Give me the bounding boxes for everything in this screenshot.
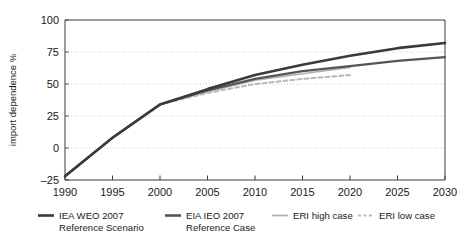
x-tick-label: 1995 [100, 186, 124, 198]
y-tick-label: 75 [47, 46, 59, 58]
legend-label-line2: Reference Scenario [59, 222, 144, 233]
x-tick-label: 2025 [385, 186, 409, 198]
x-tick-label: 1990 [53, 186, 77, 198]
chart-legend: IEA WEO 2007Reference ScenarioEIA IEO 20… [38, 210, 435, 233]
y-axis-title: import dependence % [7, 53, 18, 146]
x-tick-label: 2030 [433, 186, 457, 198]
import-dependence-line-chart: 1007550250–25 19901995200020052010201520… [0, 0, 460, 252]
y-tick-label: –25 [41, 174, 59, 186]
gridlines [65, 52, 445, 148]
data-series [65, 43, 445, 176]
legend-label-line1: EIA IEO 2007 [186, 210, 244, 221]
axes [65, 20, 445, 180]
x-axis-ticks [65, 176, 445, 181]
y-tick-label: 100 [41, 14, 59, 26]
x-tick-label: 2015 [290, 186, 314, 198]
x-tick-label: 2000 [148, 186, 172, 198]
y-tick-label: 0 [53, 142, 59, 154]
legend-label-line2: Reference Case [186, 222, 255, 233]
x-axis-tick-labels: 199019952000200520102015202020252030 [53, 186, 457, 198]
legend-label-line1: ERI low case [379, 210, 435, 221]
x-tick-label: 2010 [243, 186, 267, 198]
legend-label-line1: ERI high case [293, 210, 353, 221]
legend-label-line1: IEA WEO 2007 [59, 210, 124, 221]
x-tick-label: 2020 [338, 186, 362, 198]
x-tick-label: 2005 [195, 186, 219, 198]
chart-figure: 1007550250–25 19901995200020052010201520… [0, 0, 460, 252]
y-tick-label: 50 [47, 78, 59, 90]
y-axis-label: import dependence % [7, 53, 18, 146]
y-tick-label: 25 [47, 110, 59, 122]
